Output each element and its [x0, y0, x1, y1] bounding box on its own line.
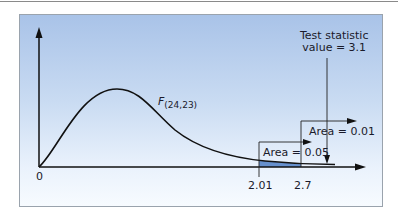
curve-label-sub: (24,23) [164, 100, 197, 110]
area-001-arrow-icon [347, 118, 357, 124]
critical-value-201: 2.01 [248, 180, 273, 192]
y-axis-arrow-icon [36, 27, 43, 38]
x-axis-arrow-icon [355, 164, 366, 171]
area-005-label: Area = 0.05 [263, 147, 329, 159]
critical-value-27: 2.7 [294, 180, 312, 192]
origin-label: 0 [36, 171, 43, 183]
test-statistic-label: Test statistic value = 3.1 [300, 30, 368, 54]
area-001-label: Area = 0.01 [309, 126, 375, 138]
test-statistic-line2: value = 3.1 [300, 42, 368, 54]
curve-label: F(24,23) [158, 96, 197, 111]
area-005-arrow-icon [303, 139, 312, 145]
